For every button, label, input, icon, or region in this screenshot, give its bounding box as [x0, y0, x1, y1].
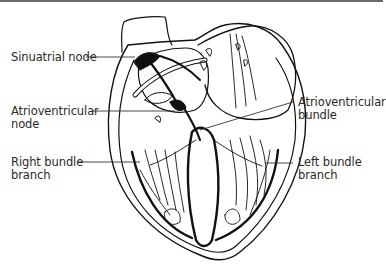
superior-vena-cava [122, 17, 173, 52]
tricuspid-valve [145, 93, 172, 104]
label-left-branch-line2: branch [298, 169, 337, 182]
label-right-branch-line2: branch [11, 169, 50, 182]
right-ventricle [132, 152, 192, 238]
label-av-node-line2: node [11, 118, 39, 131]
left-bundle-fibers [214, 136, 270, 224]
interventricular-septum [188, 128, 218, 246]
pulmonary-vein-opening [206, 48, 212, 56]
label-sinuatrial-node: Sinuatrial node [11, 51, 97, 64]
label-av-bundle-line2: bundle [298, 109, 337, 122]
sinuatrial-node-shape [134, 53, 160, 70]
